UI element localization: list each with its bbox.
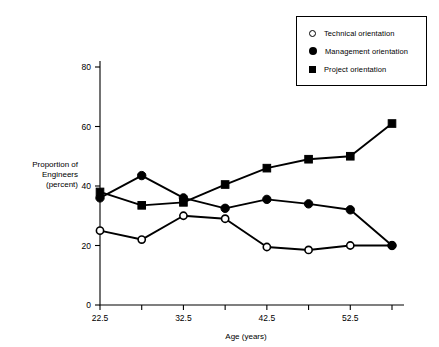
series-open-circle — [96, 212, 395, 253]
legend-item-label: Technical orientation — [324, 29, 394, 38]
series-filled-square — [96, 120, 396, 209]
chart-legend: Technical orientationManagement orientat… — [296, 16, 427, 86]
data-point — [347, 242, 354, 249]
legend-item-list: Technical orientationManagement orientat… — [297, 17, 426, 85]
data-point — [222, 215, 229, 222]
y-axis-ticks: 020406080 — [82, 62, 100, 310]
series-line — [100, 124, 392, 206]
data-point — [221, 204, 229, 212]
legend-item[interactable]: Project orientation — [309, 65, 426, 74]
x-tick-label: 52.5 — [342, 313, 359, 323]
data-point — [388, 120, 396, 128]
x-tick-label: 22.5 — [92, 313, 109, 323]
y-axis-title-line: (percent) — [46, 180, 78, 189]
x-axis-title: Age (years) — [225, 332, 267, 341]
filled-circle-icon — [309, 47, 317, 55]
y-tick-label: 60 — [82, 122, 92, 132]
data-point — [221, 181, 229, 189]
data-point — [263, 164, 271, 172]
chart-axes — [100, 61, 404, 305]
data-point — [180, 199, 188, 207]
legend-item[interactable]: Technical orientation — [309, 29, 426, 38]
data-point — [346, 152, 354, 160]
y-axis-title-line: Proportion of — [32, 160, 79, 169]
chart-axis-titles: Proportion ofEngineers(percent)Age (year… — [32, 160, 267, 341]
data-point — [96, 188, 104, 196]
data-point — [304, 200, 312, 208]
x-tick-label: 42.5 — [259, 313, 276, 323]
data-point — [138, 202, 146, 210]
open-circle-icon — [309, 30, 316, 37]
data-point — [346, 206, 354, 214]
x-axis-ticks: 22.532.542.552.5 — [92, 305, 392, 323]
y-tick-label: 40 — [82, 181, 92, 191]
x-tick-label: 32.5 — [175, 313, 192, 323]
chart-series-group — [96, 120, 396, 254]
data-point — [305, 246, 312, 253]
y-tick-label: 20 — [82, 241, 92, 251]
data-point — [138, 236, 145, 243]
data-point — [388, 241, 396, 249]
y-tick-label: 0 — [86, 300, 91, 310]
chart-page: 020406080 22.532.542.552.5 Proportion of… — [0, 0, 439, 347]
legend-item-label: Management orientation — [325, 47, 408, 56]
data-point — [305, 155, 313, 163]
axis-spines — [100, 61, 404, 305]
data-point — [180, 212, 187, 219]
data-point — [138, 171, 146, 179]
filled-square-icon — [309, 66, 316, 73]
y-tick-label: 80 — [82, 62, 92, 72]
data-point — [263, 195, 271, 203]
legend-item-label: Project orientation — [324, 65, 386, 74]
data-point — [96, 227, 103, 234]
y-axis-title-line: Engineers — [42, 170, 78, 179]
legend-item[interactable]: Management orientation — [309, 47, 426, 56]
data-point — [263, 243, 270, 250]
